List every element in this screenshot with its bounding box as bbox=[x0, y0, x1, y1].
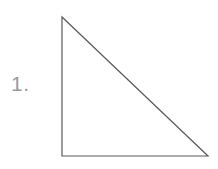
figure-canvas: 1. bbox=[0, 0, 218, 169]
right-triangle-diagram bbox=[0, 0, 218, 169]
right-triangle-shape bbox=[62, 17, 208, 156]
